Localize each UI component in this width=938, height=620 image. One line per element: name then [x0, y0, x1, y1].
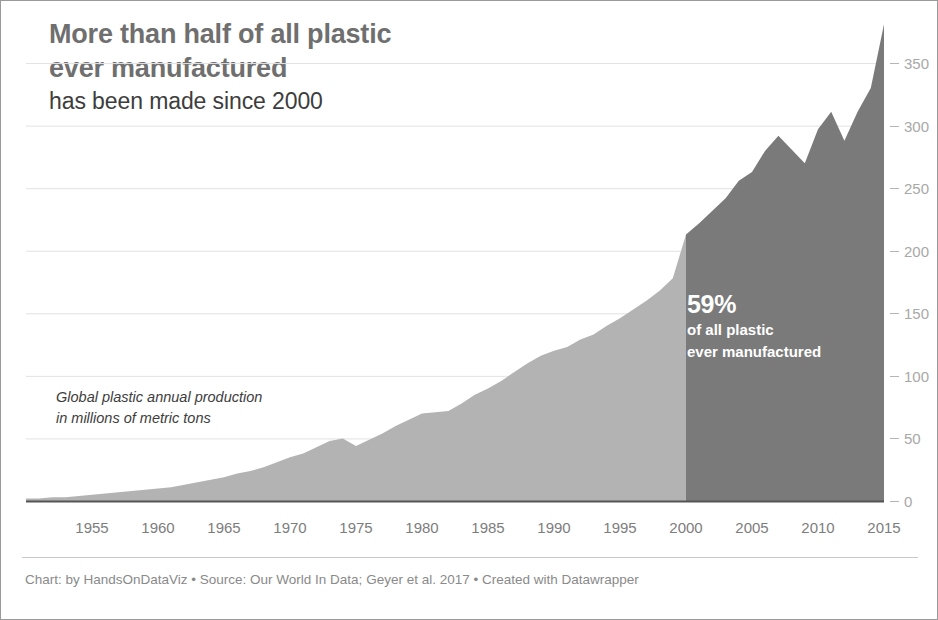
footer-divider — [22, 557, 918, 558]
highlight-annotation-line-2: ever manufactured — [687, 341, 821, 363]
y-tick-mark-0 — [890, 501, 899, 502]
y-tick-label-350: 350 — [904, 56, 929, 71]
y-tick-mark-200 — [890, 251, 899, 252]
y-tick-mark-350 — [890, 63, 899, 64]
series-annotation-line-2: in millions of metric tons — [56, 408, 262, 429]
x-tick-label-1990: 1990 — [537, 520, 570, 535]
x-tick-label-1965: 1965 — [207, 520, 240, 535]
x-tick-label-1975: 1975 — [339, 520, 372, 535]
y-tick-label-0: 0 — [904, 494, 912, 509]
highlight-annotation-line-1: of all plastic — [687, 319, 821, 341]
x-tick-label-1995: 1995 — [603, 520, 636, 535]
x-tick-label-2000: 2000 — [669, 520, 702, 535]
y-tick-label-100: 100 — [904, 369, 929, 384]
x-tick-label-1960: 1960 — [141, 520, 174, 535]
x-tick-label-2015: 2015 — [867, 520, 900, 535]
y-tick-label-300: 300 — [904, 119, 929, 134]
chart-container: More than half of all plastic ever manuf… — [0, 0, 938, 620]
highlight-annotation: 59% of all plastic ever manufactured — [687, 289, 821, 363]
y-tick-mark-300 — [890, 126, 899, 127]
y-tick-mark-250 — [890, 188, 899, 189]
y-tick-mark-100 — [890, 376, 899, 377]
y-tick-mark-50 — [890, 438, 899, 439]
footer-credit: Chart: by HandsOnDataViz • Source: Our W… — [25, 571, 639, 589]
x-tick-label-2010: 2010 — [801, 520, 834, 535]
x-tick-label-1980: 1980 — [405, 520, 438, 535]
y-tick-label-250: 250 — [904, 181, 929, 196]
series-annotation-line-1: Global plastic annual production — [56, 387, 262, 408]
area-chart-svg — [1, 1, 938, 561]
x-tick-label-1955: 1955 — [75, 520, 108, 535]
y-tick-mark-150 — [890, 313, 899, 314]
x-tick-label-1985: 1985 — [471, 520, 504, 535]
y-tick-label-150: 150 — [904, 306, 929, 321]
plot-area: 050100150200250300350 195519601965197019… — [1, 1, 938, 561]
x-tick-label-2005: 2005 — [735, 520, 768, 535]
series-annotation: Global plastic annual production in mill… — [56, 387, 262, 429]
x-tick-label-1970: 1970 — [273, 520, 306, 535]
highlight-percent-value: 59% — [687, 289, 821, 319]
y-tick-label-50: 50 — [904, 431, 921, 446]
y-tick-label-200: 200 — [904, 244, 929, 259]
